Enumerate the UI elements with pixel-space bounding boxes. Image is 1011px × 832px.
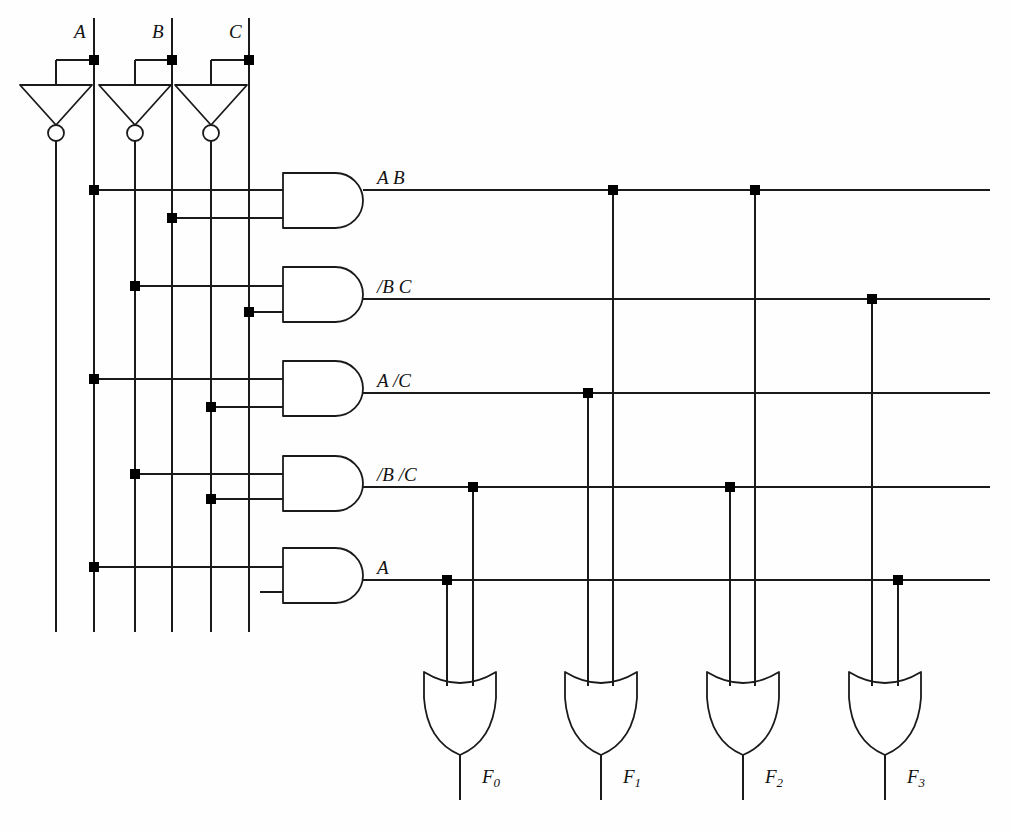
output-label-F3: F3 — [907, 767, 925, 789]
junction-dot-A-to-p4 — [90, 563, 99, 572]
junction-dot-B-input-tap — [168, 56, 177, 65]
input-label-C: C — [229, 22, 242, 41]
input-label-A: A — [74, 22, 86, 41]
output-label-F0: F0 — [482, 767, 500, 789]
product-term-label-4: A — [377, 558, 389, 577]
output-label-F0-base: F — [482, 766, 494, 787]
inverter-A-triangle — [20, 85, 92, 125]
product-term-label-0: A B — [377, 168, 405, 187]
output-label-F2: F2 — [765, 767, 783, 789]
junction-dot-A-to-p2 — [90, 375, 99, 384]
inverter-B-triangle — [99, 85, 171, 125]
inverter-C-bubble — [203, 125, 219, 141]
junction-dot-A-to-F0 — [443, 576, 452, 585]
junction-dot-AnotC-to-F1 — [584, 389, 593, 398]
output-label-F1-subscript: 1 — [635, 775, 642, 790]
inverter-A-bubble — [48, 125, 64, 141]
output-label-F3-base: F — [907, 766, 919, 787]
output-label-F2-subscript: 2 — [777, 775, 784, 790]
output-label-F1-base: F — [623, 766, 635, 787]
input-label-B: B — [152, 22, 164, 41]
and-gate-p1-body — [283, 267, 363, 322]
output-label-F3-subscript: 3 — [919, 775, 926, 790]
junction-dot-A-to-F3 — [894, 576, 903, 585]
junction-dot-notC-to-p3 — [207, 495, 216, 504]
junction-dot-B-to-p0 — [168, 214, 177, 223]
inverter-C-triangle — [175, 85, 247, 125]
and-gate-p3-body — [283, 456, 363, 511]
or-gate-F0-body — [424, 672, 496, 755]
product-term-label-2: A /C — [377, 371, 411, 390]
and-gate-p0-body — [283, 173, 363, 228]
junction-dot-notB-to-p3 — [131, 470, 140, 479]
output-label-F0-subscript: 0 — [494, 775, 501, 790]
junction-dot-notC-to-p2 — [207, 403, 216, 412]
product-term-label-1: /B C — [377, 277, 411, 296]
inverter-B-bubble — [127, 125, 143, 141]
circuit-wiring-svg — [0, 0, 1011, 832]
junction-dot-notBnotC-to-F0 — [469, 483, 478, 492]
junction-dot-A-to-p0 — [90, 186, 99, 195]
and-gate-p4-body — [283, 548, 363, 603]
and-gate-p2-body — [283, 361, 363, 416]
junction-dot-AB-to-F1 — [609, 186, 618, 195]
junction-dot-AB-to-F2 — [751, 186, 760, 195]
junction-dot-notBC-to-F3 — [868, 295, 877, 304]
product-term-label-3: /B /C — [377, 465, 417, 484]
or-gate-F3-body — [849, 672, 921, 755]
junction-dot-A-input-tap — [90, 56, 99, 65]
or-gate-F2-body — [707, 672, 779, 755]
junction-dot-C-input-tap — [245, 56, 254, 65]
circuit-diagram-canvas: A B C A B /B C A /C /B /C A F0 F1 F2 F3 — [0, 0, 1011, 832]
or-gate-F1-body — [565, 672, 637, 755]
junction-dot-C-to-p1 — [245, 308, 254, 317]
output-label-F1: F1 — [623, 767, 641, 789]
junction-dot-notB-to-p1 — [131, 282, 140, 291]
junction-dot-notBnotC-to-F2 — [726, 483, 735, 492]
output-label-F2-base: F — [765, 766, 777, 787]
